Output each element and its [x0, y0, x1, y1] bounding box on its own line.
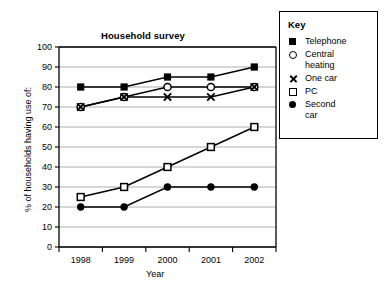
y-tick-label: 90 [26, 63, 52, 72]
y-tick-label: 70 [26, 103, 52, 112]
open-circle-marker-icon [288, 49, 302, 60]
legend-item-label: One car [305, 73, 337, 84]
y-tick-label: 10 [26, 223, 52, 232]
open-square-marker-icon [288, 86, 302, 97]
x-axis-title: Year [146, 270, 164, 279]
legend-item-one-car[interactable]: One car [288, 73, 337, 84]
filled-circle-marker-icon [288, 99, 302, 110]
legend-item-label: Centralheating [305, 49, 335, 71]
x-tick-label: 1999 [102, 256, 146, 265]
legend-item-telephone[interactable]: Telephone [288, 36, 347, 47]
cross-marker-icon [288, 73, 302, 84]
legend-item-pc[interactable]: PC [288, 86, 318, 97]
x-tick-label: 2002 [232, 256, 276, 265]
legend-item-second-car[interactable]: Secondcar [288, 99, 336, 121]
y-tick-label: 60 [26, 123, 52, 132]
x-tick-label: 2001 [189, 256, 233, 265]
legend-title: Key [288, 20, 305, 30]
y-tick-label: 50 [26, 143, 52, 152]
legend-item-label: PC [305, 86, 318, 97]
y-tick-label: 20 [26, 203, 52, 212]
x-tick-label: 1998 [59, 256, 103, 265]
y-tick-label: 80 [26, 83, 52, 92]
x-tick-label: 2000 [146, 256, 190, 265]
legend-item-label: Secondcar [305, 99, 336, 121]
y-tick-label: 30 [26, 183, 52, 192]
y-tick-label: 100 [26, 43, 52, 52]
y-tick-label: 0 [26, 243, 52, 252]
chart-figure: Household survey % of households having … [0, 0, 386, 290]
legend-item-central-heating[interactable]: Centralheating [288, 49, 335, 71]
y-tick-label: 40 [26, 163, 52, 172]
filled-square-marker-icon [288, 36, 302, 47]
chart-title: Household survey [101, 31, 185, 41]
legend-item-label: Telephone [305, 36, 347, 47]
